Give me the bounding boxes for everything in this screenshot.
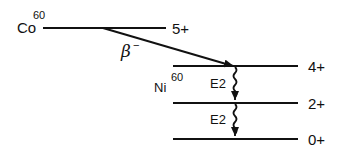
level-label-4plus: 4+ — [308, 59, 325, 74]
gamma-wavy-arrow-2 — [234, 104, 237, 136]
daughter-symbol: Ni — [154, 81, 166, 94]
parent-symbol: Co — [17, 20, 36, 35]
beta-label: β — [121, 43, 131, 60]
transition-label-1: E2 — [210, 77, 226, 90]
parent-level-label: 5+ — [172, 21, 189, 36]
daughter-mass: 60 — [171, 72, 183, 83]
transition-label-2: E2 — [210, 113, 226, 126]
parent-mass: 60 — [33, 10, 45, 21]
level-label-2plus: 2+ — [308, 96, 325, 111]
gamma-wavy-arrow-1 — [234, 67, 237, 100]
level-label-0plus: 0+ — [308, 132, 325, 147]
beta-sup: − — [133, 40, 139, 51]
